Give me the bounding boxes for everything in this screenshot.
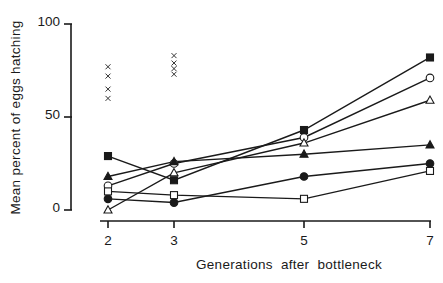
x-tick-label-5: 5 xyxy=(294,233,314,248)
data-point-filled-triangle-icon xyxy=(426,141,434,148)
data-point-filled-circle-icon xyxy=(426,160,434,168)
data-point-filled-square-icon xyxy=(301,127,308,134)
x-mark-icon xyxy=(172,72,177,77)
x-mark-icon xyxy=(106,74,111,79)
x-marks xyxy=(106,53,177,101)
data-point-open-square-icon xyxy=(427,167,434,174)
series-line-filled-triangle xyxy=(108,145,430,177)
data-point-filled-square-icon xyxy=(171,177,178,184)
data-point-filled-circle-icon xyxy=(300,173,308,181)
x-mark-icon xyxy=(106,96,111,101)
series-line-filled-square xyxy=(108,57,430,180)
series-line-open-square xyxy=(108,171,430,199)
y-axis xyxy=(64,24,72,210)
x-mark-icon xyxy=(172,61,177,66)
data-point-open-square-icon xyxy=(301,195,308,202)
data-point-open-triangle-icon xyxy=(426,96,434,103)
data-point-open-square-icon xyxy=(105,188,112,195)
series-lines xyxy=(108,57,430,210)
x-tick-label-3: 3 xyxy=(164,233,184,248)
x-tick-label-7: 7 xyxy=(420,233,440,248)
data-point-filled-square-icon xyxy=(105,153,112,160)
data-point-filled-circle-icon xyxy=(170,199,178,207)
y-tick-label-50: 50 xyxy=(30,107,60,122)
x-axis-label: Generations after bottleneck xyxy=(196,257,382,272)
x-mark-icon xyxy=(106,87,111,92)
chart-plot-area xyxy=(0,0,443,283)
x-mark-icon xyxy=(172,66,177,71)
data-point-open-triangle-icon xyxy=(104,206,112,213)
x-mark-icon xyxy=(172,53,177,58)
y-tick-label-0: 0 xyxy=(30,200,60,215)
x-tick-label-2: 2 xyxy=(98,233,118,248)
x-axis xyxy=(100,221,431,228)
y-tick-label-100: 100 xyxy=(30,14,60,29)
series-markers xyxy=(104,54,434,213)
data-point-open-square-icon xyxy=(171,192,178,199)
x-mark-icon xyxy=(106,64,111,69)
y-axis-label: Mean percent of eggs hatching xyxy=(0,24,30,210)
data-point-open-circle-icon xyxy=(426,74,434,82)
series-line-open-circle xyxy=(108,78,430,186)
data-point-filled-square-icon xyxy=(427,54,434,61)
data-point-filled-circle-icon xyxy=(104,195,112,203)
